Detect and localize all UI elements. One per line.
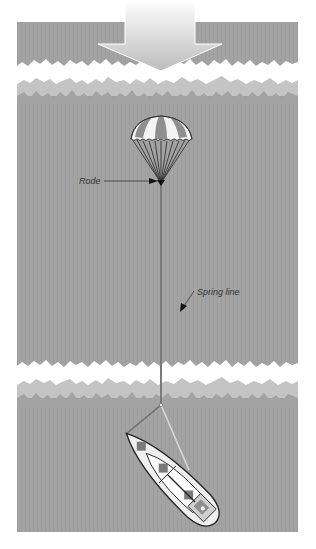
forward-hatch <box>137 442 146 451</box>
spring-line-label: Spring line <box>197 287 240 297</box>
main-hatch <box>159 464 168 473</box>
wave-band-bottom <box>17 360 298 408</box>
rode-junction <box>159 403 162 406</box>
rode-label: Rode <box>79 176 101 186</box>
sea-anchor-diagram <box>0 0 316 549</box>
